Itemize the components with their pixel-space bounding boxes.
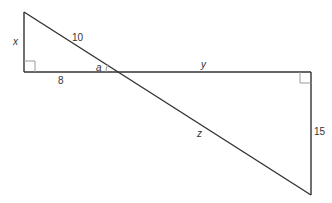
diagonal-line	[24, 12, 311, 195]
angle-arc-a	[106, 65, 108, 73]
right-angle-marker-right	[300, 72, 311, 83]
label-angle-a: a	[96, 62, 102, 73]
label-z: z	[196, 128, 202, 139]
right-angle-marker-left	[24, 61, 35, 72]
label-hyp-10: 10	[72, 32, 84, 43]
label-base-8: 8	[58, 75, 64, 86]
triangle-diagram: x 10 8 a y z 15	[0, 0, 332, 203]
label-x: x	[12, 36, 19, 47]
label-side-15: 15	[314, 126, 326, 137]
label-y: y	[200, 59, 207, 70]
